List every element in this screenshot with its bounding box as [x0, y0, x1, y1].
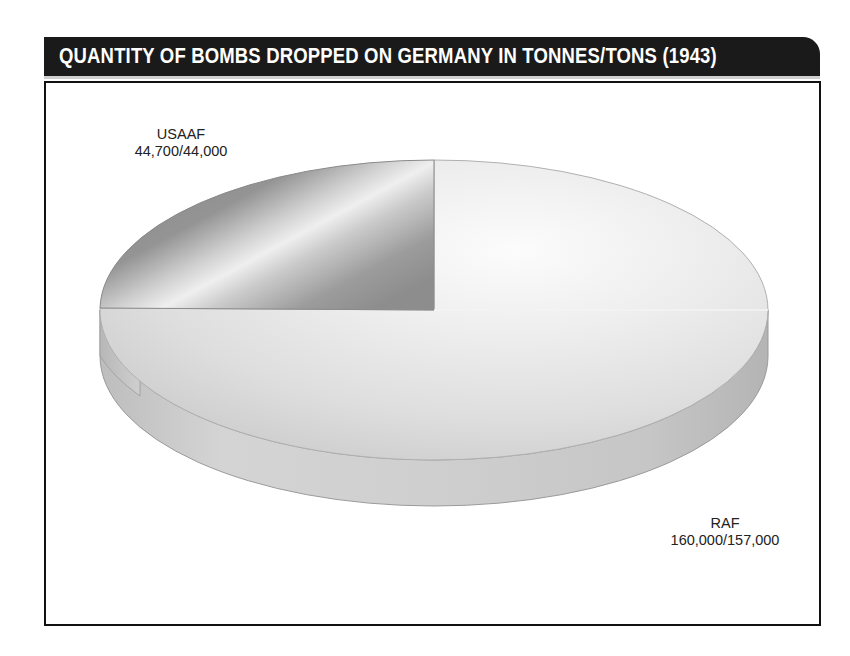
pie-label-usaaf-name: USAAF — [122, 126, 240, 143]
chart-title-bar: QUANTITY OF BOMBS DROPPED ON GERMANY IN … — [44, 37, 820, 76]
pie-label-raf-name: RAF — [645, 515, 805, 532]
pie-label-raf: RAF 160,000/157,000 — [645, 515, 805, 548]
pie-label-usaaf-value: 44,700/44,000 — [122, 143, 240, 160]
title-underline — [44, 76, 820, 79]
pie-label-usaaf: USAAF 44,700/44,000 — [122, 126, 240, 159]
chart-title: QUANTITY OF BOMBS DROPPED ON GERMANY IN … — [59, 46, 717, 68]
chart-figure: QUANTITY OF BOMBS DROPPED ON GERMANY IN … — [0, 0, 850, 656]
pie-label-raf-value: 160,000/157,000 — [645, 532, 805, 549]
